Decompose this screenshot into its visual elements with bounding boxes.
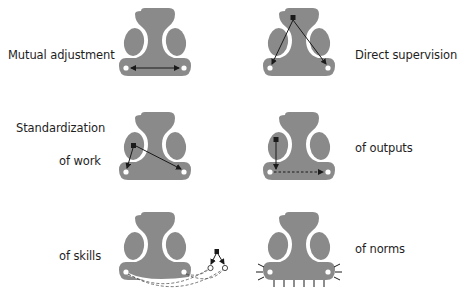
- label-of-outputs: of outputs: [355, 141, 413, 155]
- operator-node-right: [325, 269, 330, 274]
- diagram-standardization-of-skills: [118, 212, 238, 292]
- manager-node-icon: [291, 15, 296, 20]
- operator-node-left: [267, 65, 272, 70]
- label-of-skills: of skills: [59, 249, 101, 263]
- operator-node-left: [267, 169, 272, 174]
- diagram-standardization-of-outputs: [262, 112, 338, 184]
- diagram-standardization-of-work: [118, 112, 194, 184]
- label-direct-supervision: Direct supervision: [355, 48, 457, 62]
- operator-node-right: [325, 65, 330, 70]
- operator-node-right: [181, 65, 186, 70]
- technostructure-node-icon: [131, 143, 136, 148]
- external-node-right: [222, 265, 227, 270]
- technostructure-node-icon: [274, 137, 279, 142]
- arrow-icon: [211, 254, 216, 264]
- label-of-work: of work: [59, 154, 101, 168]
- label-standardization: Standardization: [16, 121, 105, 135]
- external-node-left: [208, 265, 213, 270]
- operator-node-left: [123, 65, 128, 70]
- operator-node-left: [123, 169, 128, 174]
- operator-node-right: [181, 169, 186, 174]
- label-of-norms: of norms: [355, 242, 405, 256]
- label-mutual-adjustment: Mutual adjustment: [8, 48, 115, 62]
- operator-node-right: [181, 269, 186, 274]
- diagram-mutual-adjustment: [118, 8, 194, 80]
- operator-node-right: [325, 169, 330, 174]
- training-node-icon: [215, 249, 220, 254]
- arrow-icon: [218, 254, 224, 264]
- operator-node-left: [267, 269, 272, 274]
- diagram-standardization-of-norms: [262, 212, 338, 292]
- dashed-curve-icon: [186, 268, 225, 279]
- operator-node-left: [123, 269, 128, 274]
- diagram-direct-supervision: [262, 8, 338, 80]
